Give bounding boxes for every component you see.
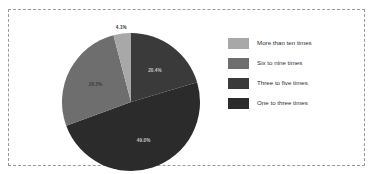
pie-svg [61,32,201,172]
legend-item-label: Three to five times [257,80,308,86]
legend-item-label: Six to nine times [257,60,302,66]
legend-swatch-icon [228,38,249,49]
legend-item[interactable]: One to three times [228,97,353,109]
legend-item[interactable]: Three to five times [228,77,353,89]
legend-item[interactable]: Six to nine times [228,57,353,69]
legend-item[interactable]: More than ten times [228,37,353,49]
pie-slice-value-label: 4.1% [116,24,127,29]
pie-chart-figure: 20.4%49.0%26.5%4.1% More than ten timesS… [0,0,378,174]
legend-swatch-icon [228,58,249,69]
legend-swatch-icon [228,98,249,109]
pie-plot-area: 20.4%49.0%26.5%4.1% [61,32,201,172]
chart-legend: More than ten timesSix to nine timesThre… [228,37,353,117]
legend-item-label: More than ten times [257,40,312,46]
legend-swatch-icon [228,78,249,89]
plot-frame: 20.4%49.0%26.5%4.1% More than ten timesS… [8,9,365,166]
legend-item-label: One to three times [257,100,308,106]
